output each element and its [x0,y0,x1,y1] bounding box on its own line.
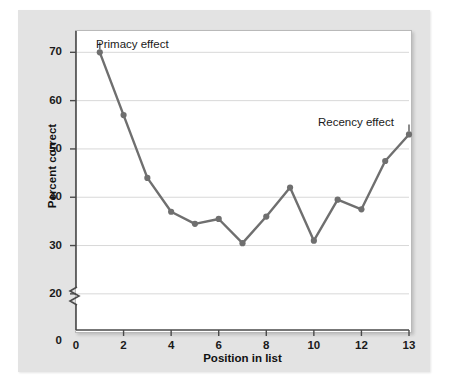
y-axis-ticks [70,52,76,294]
axis-break-zigzag [70,287,79,305]
data-point-marker [239,240,245,246]
data-point-marker [358,206,364,212]
x-tick-label: 4 [158,339,184,351]
y-tick-label: 70 [36,45,62,57]
data-point-marker [192,221,198,227]
x-tick-label: 12 [348,339,374,351]
data-point-marker [406,131,412,137]
y-axis-title: Percent correct [46,106,58,226]
y-tick-label: 60 [36,94,62,106]
serial-position-curve-figure: 2030405060700 02468101213 Percent correc… [0,0,457,392]
x-tick-label: 8 [253,339,279,351]
data-point-marker [335,197,341,203]
y-origin-label: 0 [36,334,62,346]
x-axis-title: Position in list [75,352,410,364]
axis-lines [76,31,409,330]
x-tick-label: 13 [396,339,422,351]
data-point-marker [382,158,388,164]
y-tick-label: 20 [36,287,62,299]
data-point-marker [263,213,269,219]
data-point-marker [120,112,126,118]
x-axis-ticks [124,330,409,336]
recency-effect-annotation: Recency effect [318,116,394,128]
data-point-markers [97,49,412,246]
gridlines [76,52,409,294]
x-tick-label: 6 [206,339,232,351]
primacy-effect-annotation: Primacy effect [96,38,169,50]
data-point-marker [168,209,174,215]
y-axis-break-symbol [70,287,79,305]
data-series-line [100,52,409,243]
x-tick-label: 10 [301,339,327,351]
data-point-marker [97,49,103,55]
x-tick-label: 2 [111,339,137,351]
data-point-marker [287,184,293,190]
data-point-marker [311,238,317,244]
series-polyline [100,52,409,243]
data-point-marker [216,216,222,222]
chart-canvas [0,0,457,392]
y-tick-label: 30 [36,239,62,251]
data-point-marker [144,175,150,181]
x-tick-label: 0 [63,339,89,351]
